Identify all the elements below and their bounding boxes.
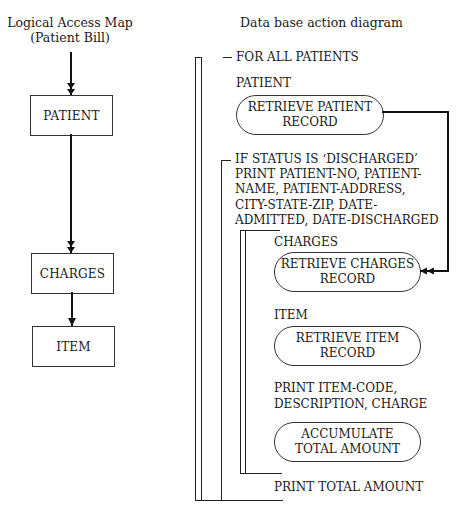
arrowhead-icon xyxy=(67,241,75,247)
left-title-line1: Logical Access Map xyxy=(0,15,140,30)
left-diagram-title: Logical Access Map (Patient Bill) xyxy=(0,15,140,45)
retrieve-patient-record-pill: RETRIEVE PATIENT RECORD xyxy=(236,95,384,135)
inner-loop-bracket-inner xyxy=(245,230,246,473)
entity-label-patient: PATIENT xyxy=(43,109,99,123)
patient-entity-label: PATIENT xyxy=(236,76,291,91)
retrieve-charges-line2: RECORD xyxy=(320,272,375,287)
entity-box-item: ITEM xyxy=(32,326,115,367)
arrowhead-icon xyxy=(427,268,434,275)
condition-line-5: ADMITTED, DATE-DISCHARGED xyxy=(235,213,439,228)
print-item-block: PRINT ITEM-CODE, DESCRIPTION, CHARGE xyxy=(274,381,427,412)
condition-line-1: IF STATUS IS ‘DISCHARGED’ xyxy=(235,152,439,167)
entity-box-patient: PATIENT xyxy=(30,95,113,136)
print-total-label: PRINT TOTAL AMOUNT xyxy=(274,480,423,495)
left-title-line2: (Patient Bill) xyxy=(0,30,140,45)
print-item-line1: PRINT ITEM-CODE, xyxy=(274,381,427,397)
retrieve-charges-record-pill: RETRIEVE CHARGES RECORD xyxy=(274,252,421,292)
condition-line-3: NAME, PATIENT-ADDRESS, xyxy=(235,182,439,197)
right-diagram-title: Data base action diagram xyxy=(240,15,390,30)
entity-label-charges: CHARGES xyxy=(40,267,105,281)
retrieve-patient-line1: RETRIEVE PATIENT xyxy=(248,100,373,115)
retrieve-item-record-pill: RETRIEVE ITEM RECORD xyxy=(274,326,421,366)
accumulate-line2: TOTAL AMOUNT xyxy=(295,442,400,457)
retrieve-patient-line2: RECORD xyxy=(282,115,337,130)
accumulate-total-pill: ACCUMULATE TOTAL AMOUNT xyxy=(274,422,421,462)
condition-line-4: CITY-STATE-ZIP, DATE- xyxy=(235,198,439,213)
charges-entity-label: CHARGES xyxy=(274,235,338,250)
outer-loop-label: FOR ALL PATIENTS xyxy=(236,50,359,65)
entity-box-charges: CHARGES xyxy=(31,253,114,294)
outer-loop-bracket-inner xyxy=(201,57,202,500)
arrowhead-icon xyxy=(68,318,76,326)
condition-bracket xyxy=(221,160,222,500)
condition-line-2: PRINT PATIENT-NO, PATIENT- xyxy=(235,167,439,182)
retrieve-item-line2: RECORD xyxy=(320,346,375,361)
entity-label-item: ITEM xyxy=(56,340,91,354)
outer-loop-top-bar xyxy=(195,57,202,58)
arrowhead-icon xyxy=(420,268,427,275)
arrowhead-icon xyxy=(67,83,75,89)
inner-loop-top-bar xyxy=(240,230,280,231)
accumulate-line1: ACCUMULATE xyxy=(301,427,393,442)
condition-block: IF STATUS IS ‘DISCHARGED’ PRINT PATIENT-… xyxy=(235,152,439,228)
print-item-line2: DESCRIPTION, CHARGE xyxy=(274,397,427,413)
retrieve-charges-line1: RETRIEVE CHARGES xyxy=(281,257,415,272)
inner-loop-bracket-outer xyxy=(240,230,241,473)
outer-loop-bottom-bar xyxy=(195,500,283,501)
outer-loop-top-tick xyxy=(223,57,232,58)
retrieve-item-line1: RETRIEVE ITEM xyxy=(296,331,399,346)
condition-top-bar xyxy=(221,160,231,161)
item-entity-label: ITEM xyxy=(274,308,308,323)
inner-loop-bottom-bar xyxy=(240,473,282,474)
outer-loop-bracket-outer xyxy=(195,57,196,500)
